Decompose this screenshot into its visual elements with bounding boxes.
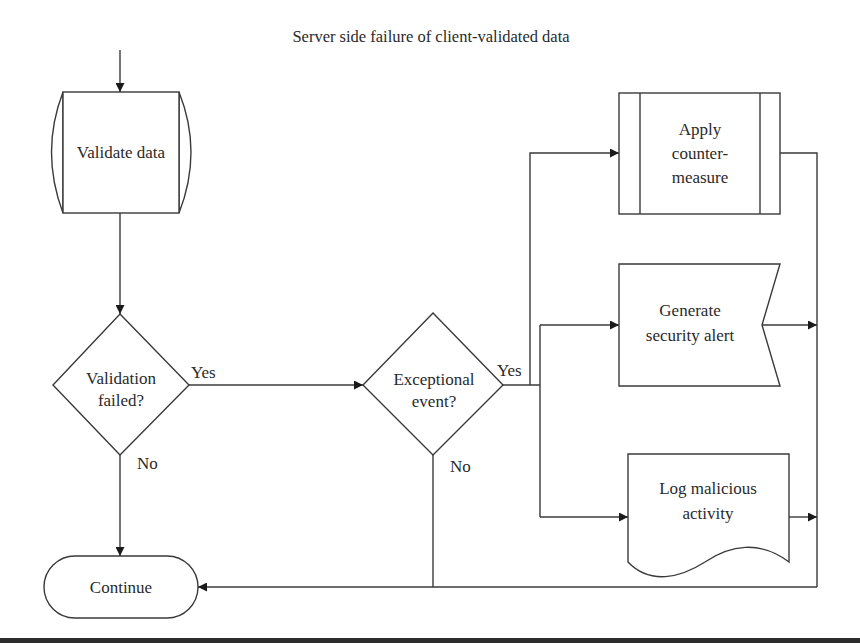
diagram-title: Server side failure of client-validated … [292, 27, 570, 46]
bottom-rule [0, 638, 860, 643]
edge-to-countermeasure [530, 153, 619, 385]
node-continue[interactable]: Continue [44, 556, 198, 618]
node-log-malicious-activity[interactable]: Log malicious activity [628, 454, 789, 577]
countermeasure-line3: measure [672, 168, 729, 187]
exceptional-event-line2: event? [412, 392, 456, 411]
node-apply-countermeasure[interactable]: Apply counter- measure [619, 93, 780, 214]
node-generate-security-alert[interactable]: Generate security alert [619, 264, 780, 386]
security-alert-line2: security alert [646, 326, 735, 345]
exceptional-event-line1: Exceptional [393, 370, 474, 389]
countermeasure-line1: Apply [679, 120, 722, 139]
validation-failed-line1: Validation [86, 369, 156, 388]
left-arc [52, 92, 64, 213]
log-activity-line2: activity [683, 504, 734, 523]
flowchart-canvas: Server side failure of client-validated … [0, 0, 860, 643]
node-exceptional-event[interactable]: Exceptional event? [363, 313, 503, 455]
node-validation-failed[interactable]: Validation failed? [53, 314, 189, 455]
node-validate-data[interactable]: Validate data [52, 92, 192, 213]
validate-data-label: Validate data [77, 143, 166, 162]
countermeasure-line2: counter- [672, 144, 729, 163]
edge-label-validation-yes: Yes [191, 363, 216, 382]
edge-label-exceptional-no: No [450, 457, 471, 476]
alert-shape [619, 264, 780, 386]
continue-label: Continue [90, 578, 152, 597]
right-arc [179, 92, 191, 213]
security-alert-line1: Generate [659, 301, 720, 320]
edge-label-exceptional-yes: Yes [497, 361, 522, 380]
log-activity-line1: Log malicious [659, 479, 757, 498]
validation-failed-line2: failed? [98, 391, 144, 410]
edge-label-validation-no: No [137, 454, 158, 473]
